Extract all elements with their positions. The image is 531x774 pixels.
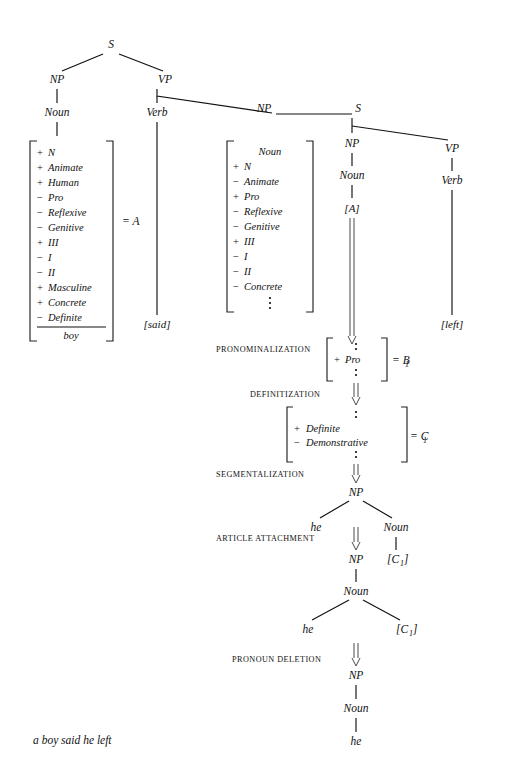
node-vp-embedded: VP [445,142,459,154]
arrow-pronominalization [348,218,356,344]
branch-s-vp [119,54,163,71]
feature-sign: + [233,191,239,202]
feature-sign: − [233,176,239,187]
matrix-a-rows: + N + Animate + Human − Pro − Reflexive … [37,147,92,323]
matrix-b-header: Noun [258,146,282,157]
arrow-segmentalization [352,464,360,483]
feature-sign: + [294,423,300,434]
leaf-he-final: he [351,735,362,747]
branch-s-np [62,54,103,71]
leaf-said: [said] [144,318,171,330]
node-np-segmented: NP [348,486,364,498]
arrow-pronoun-deletion [352,643,360,666]
feature-name: Definite [305,423,340,434]
feature-name: Concrete [244,281,282,292]
node-noun-segmented: Noun [383,521,409,533]
feature-sign: − [233,281,239,292]
feature-sign: − [37,192,43,203]
node-s-root: S [108,38,114,50]
feature-sign: − [294,437,300,448]
bracket-b-right [306,141,313,312]
node-verb-main: Verb [146,106,167,118]
node-np-subject: NP [49,73,65,85]
feature-matrix-b: Noun + N − Animate + Pro − Reflexive − G… [227,141,313,312]
feature-sign: − [37,252,43,263]
leaf-left: [left] [441,318,464,330]
feature-sign: − [233,206,239,217]
bracket-a-right [106,141,113,341]
feature-name: III [243,236,255,247]
node-vp: VP [158,73,172,85]
feature-sign: − [37,312,43,323]
feature-name: N [243,161,252,172]
node-noun-embedded: Noun [339,169,365,181]
syntax-derivation-figure: S NP VP Noun Verb [said] NP S NP VP Noun… [0,0,531,774]
feature-sign: − [233,221,239,232]
rule-label-pronoun-deletion: PRONOUN DELETION [232,655,321,664]
node-verb-embedded: Verb [441,174,462,186]
feature-name: Reflexive [243,206,283,217]
branch-np-he [320,501,349,518]
matrix-b1-ellipsis-top [355,343,357,350]
rule-label-definitization: DEFINITIZATION [250,390,320,399]
feature-name: Definite [47,312,82,323]
leaf-c1-open: [C [396,623,408,635]
feature-sign: − [37,267,43,278]
feature-name: Animate [243,176,279,187]
leaf-c1-close: ] [412,623,417,635]
arrow-definitization [352,383,360,405]
bracket-b1-right [381,338,387,381]
matrix-b-ellipsis [269,297,271,309]
feature-matrix-c1: + Definite − Demonstrative = C 1 [287,407,429,462]
feature-name: I [243,251,248,262]
feature-name: Concrete [48,297,86,308]
feature-name: Demonstrative [305,437,368,448]
feature-name: II [47,267,55,278]
feature-sign: + [233,236,239,247]
matrix-b1-ellipsis-bottom [355,369,357,376]
final-tree: NP Noun he [343,669,369,747]
feature-name: I [47,252,52,263]
node-np-object: NP [256,102,272,114]
feature-sign: + [37,297,43,308]
matrix-a-baseform: boy [63,330,79,341]
bracket-c1-left [287,407,293,462]
feature-sign: + [37,162,43,173]
feature-name: Reflexive [47,207,87,218]
leaf-a-bracket: [A] [344,202,359,214]
node-np-embedded: NP [344,137,360,149]
matrix-c1-ellipsis-top [355,411,357,418]
feature-name: Genitive [244,221,280,232]
branch-np-noun [363,501,392,518]
matrix-b-rows: + N − Animate + Pro − Reflexive − Geniti… [233,161,283,292]
feature-name: Human [47,177,79,188]
feature-name: Animate [47,162,83,173]
feature-sign: − [233,266,239,277]
feature-sign: + [37,147,43,158]
feature-sign: − [37,222,43,233]
matrix-b1-subscript: 1 [405,360,409,369]
rule-label-article-attachment: ARTICLE ATTACHMENT [216,534,315,543]
rule-label-segmentalization: SEGMENTALIZATION [216,470,304,479]
node-s-embedded: S [355,102,361,114]
branch-vp-np-object [157,89,272,113]
leaf-c1-close: ] [403,553,408,565]
node-noun-subject: Noun [44,106,70,118]
feature-name: II [243,266,251,277]
leaf-he-attached: he [303,623,314,635]
matrix-c1-subscript: 1 [423,436,427,445]
node-noun-final: Noun [343,702,369,714]
feature-name: III [47,237,59,248]
branch-noun-c1-attached [363,600,400,620]
feature-name: Pro [344,354,360,365]
feature-name: Masculine [47,282,92,293]
feature-name: Pro [47,192,63,203]
matrix-a-equals-label: = A [122,215,140,227]
node-np-attached: NP [348,553,364,565]
leaf-c1-attached: [C 1 ] [396,623,417,638]
feature-name: N [47,147,56,158]
leaf-c1-open: [C [387,553,399,565]
feature-sign: + [37,282,43,293]
feature-sign: + [37,177,43,188]
bracket-c1-right [401,407,407,462]
